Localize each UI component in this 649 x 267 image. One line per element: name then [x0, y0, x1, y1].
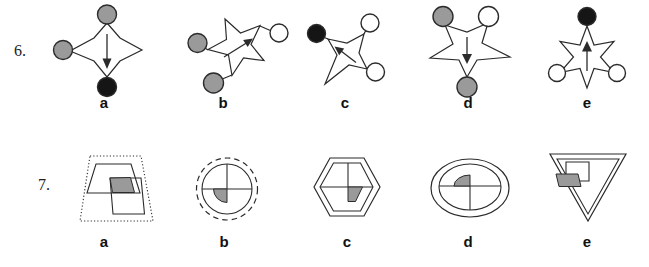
star-4point — [70, 23, 142, 77]
dot-bottom-left — [549, 65, 566, 82]
dot-top-left — [308, 25, 326, 43]
option-label: c — [341, 94, 349, 111]
option-6a[interactable]: a — [54, 5, 143, 111]
option-6d[interactable]: d — [430, 7, 510, 112]
option-label: d — [463, 233, 472, 250]
shaded-quarter — [110, 178, 135, 193]
dot-top-left — [433, 7, 453, 27]
shaded-quarter — [214, 189, 228, 203]
dot-top-right — [361, 14, 379, 32]
shaded-quarter — [348, 187, 363, 202]
shaded-quarter — [454, 175, 470, 186]
dot-top — [578, 8, 596, 26]
star-5point — [208, 19, 264, 76]
outer-triangle-inverted — [550, 154, 626, 221]
test-page-canvas: 6. a b c — [0, 0, 649, 267]
option-7e[interactable]: e — [550, 154, 626, 250]
option-label: c — [343, 233, 351, 250]
option-6b[interactable]: b — [188, 19, 288, 111]
question-6-number: 6. — [14, 42, 26, 59]
star-5point-inverted — [430, 23, 510, 77]
dot-top — [98, 5, 117, 24]
option-label: e — [583, 94, 591, 111]
dot-top-right — [270, 24, 288, 42]
option-label: e — [583, 233, 591, 250]
option-6e[interactable]: e — [549, 8, 626, 112]
dot-bottom — [204, 73, 224, 93]
option-label: b — [219, 233, 228, 250]
dot-bottom-right — [609, 65, 626, 82]
dot-bottom-right — [367, 63, 385, 81]
question-7-number: 7. — [38, 176, 50, 193]
option-label: d — [463, 94, 472, 111]
option-7d[interactable]: d — [431, 159, 509, 250]
star-4point-rotated — [325, 34, 367, 84]
option-7c[interactable]: c — [314, 158, 380, 250]
option-6c[interactable]: c — [308, 14, 385, 111]
option-7a[interactable]: a — [80, 156, 153, 250]
scanned-test-page: 6. a b c — [0, 0, 649, 267]
option-7b[interactable]: b — [197, 158, 258, 250]
dot-top-right — [479, 7, 499, 27]
option-label: a — [100, 233, 109, 250]
option-label: a — [100, 94, 109, 111]
dot-left — [54, 41, 73, 60]
dot-left — [188, 34, 207, 53]
shaded-quarter — [556, 174, 581, 187]
option-label: b — [218, 94, 227, 111]
